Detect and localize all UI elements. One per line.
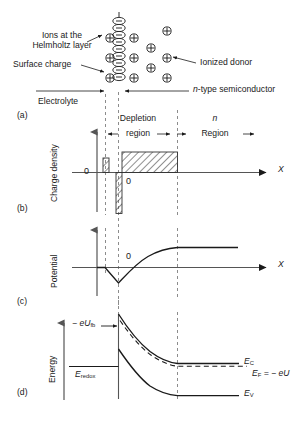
label-ec: EC [244,357,254,367]
panel-c-group [72,230,266,296]
panel-c-letter: (c) [17,297,27,307]
label-ions-line2: Helmholtz layer [32,40,91,50]
block-depletion-charge [122,152,178,173]
panel-b-origin-label: 0 [84,166,89,176]
panel-a-letter: (a) [17,111,28,121]
label-eredox: Eredox [75,370,95,380]
ev-band-curve [119,349,240,396]
panel-b-group [72,132,266,214]
figure-root: Ions at the Helmholtz layer Surface char… [0,0,302,425]
label-ions-line1: Ions at the [42,30,82,40]
label-depletion-region-top: Depletion [114,114,162,124]
panel-d-letter: (d) [17,388,28,398]
label-ef: EF = − eU [252,369,289,379]
label-n-region-bottom: Region [192,129,238,139]
ef-level-dashed [120,321,247,367]
label-ec-sub: C [250,360,254,366]
panel-c-y-label: Potential [50,255,60,288]
bar-surface-charge [116,173,122,214]
panel-a-group [36,12,196,91]
bar-helmholtz-charge [103,158,109,173]
label-ionized-donor: Ionized donor [200,58,252,68]
panel-c-x-label: X [278,260,284,270]
panel-b-below-zero-label: 0 [126,176,131,186]
ec-band-curve [119,314,240,364]
label-n-type-semiconductor: n-type semiconductor [193,85,275,95]
label-ef-rest: = − eU [261,368,289,378]
panel-b-y-label: Charge density [50,144,60,202]
label-n-region-top: n [201,114,229,124]
label-surface-charge: Surface charge [13,60,71,70]
label-semiconductor-rest: -type semiconductor [198,84,275,94]
label-ev-sub: V [250,392,254,398]
label-eufb: − eUfb [72,319,95,329]
label-ev: EV [244,389,254,399]
label-depletion-region-bottom: region [119,129,157,139]
panel-b-x-label: X [278,165,284,175]
label-electrolyte: Electrolyte [38,97,78,107]
label-ions-helmholtz: Ions at the Helmholtz layer [26,31,98,50]
potential-curve [97,248,238,284]
panel-a-leader-lines [81,35,196,72]
label-eredox-sub: redox [81,373,96,379]
ionized-donor-group [130,27,171,82]
label-eufb-sub: fb [90,322,95,328]
helmholtz-ion-group [106,34,114,82]
panel-b-letter: (b) [17,204,28,214]
panel-c-origin-label: 0 [126,251,131,261]
panel-d-y-label: Energy [48,356,58,383]
